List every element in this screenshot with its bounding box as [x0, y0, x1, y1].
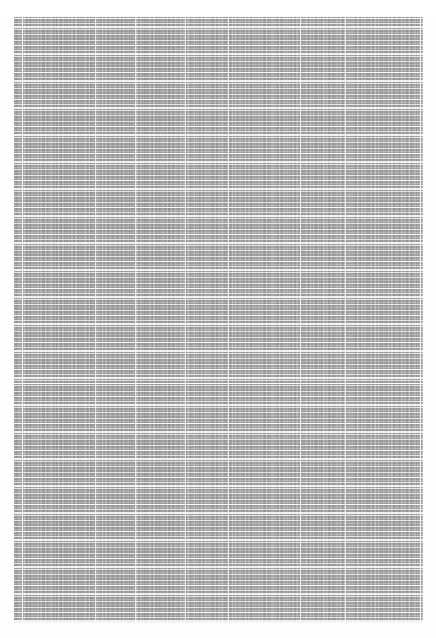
table-row-gridline	[14, 115, 423, 116]
table-row-gridline	[14, 45, 423, 46]
table-row-gridline	[14, 531, 423, 532]
table-row-gridline	[14, 580, 423, 581]
table-row-gridline	[14, 461, 423, 462]
table-row-gridline	[14, 266, 423, 267]
table-row-gridline	[14, 261, 423, 262]
table-row-gridline	[14, 504, 423, 505]
data-table-sheet[interactable]	[14, 16, 423, 623]
table-row-gridline	[14, 607, 423, 608]
table-row-gridline	[14, 472, 423, 473]
table-row-gridline	[14, 61, 423, 62]
table-row-gridline	[14, 77, 423, 78]
table-top-border	[14, 16, 423, 17]
table-row-gridline	[14, 391, 423, 392]
table-group-separator	[14, 350, 423, 352]
table-row-gridline	[14, 358, 423, 359]
table-row-gridline	[14, 542, 423, 543]
table-row-gridline	[14, 477, 423, 478]
table-group-separator	[14, 161, 423, 163]
table-row-gridline	[14, 320, 423, 321]
table-row-gridline	[14, 450, 423, 451]
table-row-gridline	[14, 617, 423, 618]
table-group-separator	[14, 404, 423, 406]
table-row-gridline	[14, 455, 423, 456]
table-row-gridline	[14, 347, 423, 348]
table-row-gridline	[14, 164, 423, 165]
table-row-gridline	[14, 299, 423, 300]
table-row-gridline	[14, 369, 423, 370]
table-group-separator	[14, 323, 423, 325]
table-group-separator	[14, 458, 423, 460]
table-row-gridline	[14, 293, 423, 294]
table-row-gridline	[14, 126, 423, 127]
table-row-gridline	[14, 466, 423, 467]
table-column-gridline	[185, 16, 186, 623]
table-row-gridline	[14, 169, 423, 170]
table-row-gridline	[14, 250, 423, 251]
table-row-gridline	[14, 245, 423, 246]
table-row-gridline	[14, 326, 423, 327]
table-row-gridline	[14, 315, 423, 316]
table-row-gridline	[14, 196, 423, 197]
table-row-gridline	[14, 283, 423, 284]
table-group-separator	[14, 377, 423, 379]
table-group-separator	[14, 134, 423, 136]
table-row-gridline	[14, 374, 423, 375]
table-column-gridline	[345, 16, 346, 623]
table-group-separator	[14, 485, 423, 487]
table-row-gridline	[14, 401, 423, 402]
table-row-gridline	[14, 104, 423, 105]
table-row-gridline	[14, 407, 423, 408]
table-row-gridline	[14, 553, 423, 554]
table-group-separator	[14, 215, 423, 217]
table-row-gridline	[14, 396, 423, 397]
table-row-gridline	[14, 331, 423, 332]
table-row-gridline	[14, 272, 423, 273]
table-row-gridline	[14, 67, 423, 68]
table-major-rule	[14, 383, 423, 384]
table-row-gridline	[14, 256, 423, 257]
table-row-gridline	[14, 18, 423, 19]
page-header	[0, 0, 436, 16]
table-row-gridline	[14, 180, 423, 181]
table-row-gridline	[14, 175, 423, 176]
table-row-gridline	[14, 56, 423, 57]
table-row-gridline	[14, 148, 423, 149]
table-row-gridline	[14, 493, 423, 494]
table-row-gridline	[14, 590, 423, 591]
table-row-gridline	[14, 34, 423, 35]
table-row-gridline	[14, 40, 423, 41]
table-row-gridline	[14, 380, 423, 381]
table-row-gridline	[14, 23, 423, 24]
table-row-gridline	[14, 142, 423, 143]
table-row-gridline	[14, 229, 423, 230]
table-group-separator	[14, 107, 423, 109]
table-row-gridline	[14, 434, 423, 435]
table-row-gridline	[14, 288, 423, 289]
table-row-gridline	[14, 158, 423, 159]
table-group-separator	[14, 188, 423, 190]
table-group-separator	[14, 26, 423, 28]
table-row-gridline	[14, 94, 423, 95]
table-row-gridline	[14, 526, 423, 527]
table-group-separator	[14, 539, 423, 541]
table-column-gridline	[300, 16, 301, 623]
table-column-gridline	[22, 16, 23, 623]
table-row-gridline	[14, 499, 423, 500]
table-row-gridline	[14, 121, 423, 122]
table-row-gridline	[14, 445, 423, 446]
table-row-gridline	[14, 342, 423, 343]
table-row-gridline	[14, 202, 423, 203]
table-row-gridline	[14, 239, 423, 240]
table-row-gridline	[14, 423, 423, 424]
table-row-gridline	[14, 488, 423, 489]
table-row-gridline	[14, 385, 423, 386]
table-row-gridline	[14, 364, 423, 365]
table-row-gridline	[14, 558, 423, 559]
table-row-gridline	[14, 207, 423, 208]
table-row-gridline	[14, 585, 423, 586]
table-row-gridline	[14, 482, 423, 483]
table-row-gridline	[14, 418, 423, 419]
table-row-gridline	[14, 569, 423, 570]
table-row-gridline	[14, 88, 423, 89]
